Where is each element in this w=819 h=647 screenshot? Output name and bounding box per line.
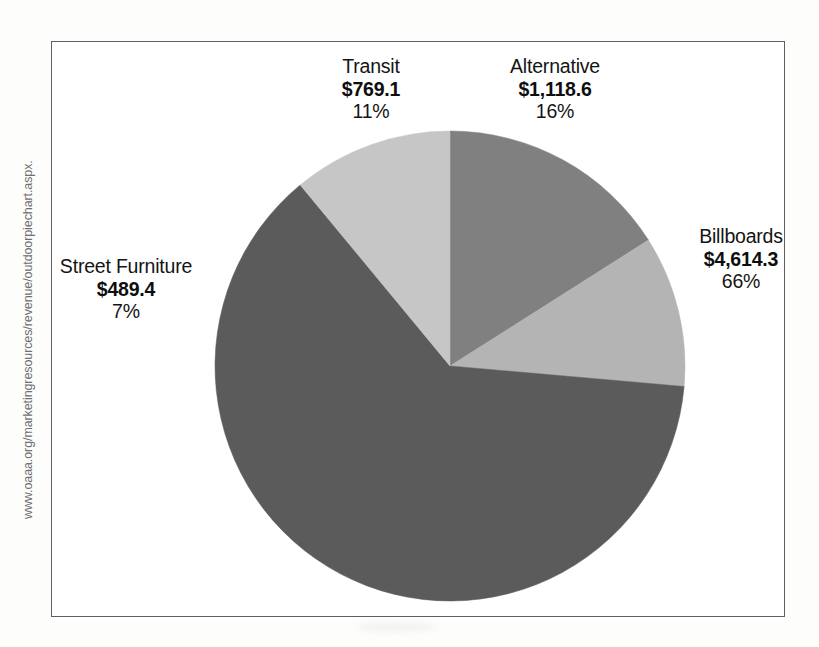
slice-label-transit-value: $769.1 (296, 78, 446, 101)
slice-label-billboards-name: Billboards (672, 225, 810, 248)
slice-label-billboards-value: $4,614.3 (672, 248, 810, 271)
slice-label-street-furniture-value: $489.4 (32, 278, 220, 301)
slice-label-transit-name: Transit (296, 55, 446, 78)
chart-frame (51, 41, 785, 617)
slice-label-billboards-percent: 66% (672, 270, 810, 293)
slice-label-alternative-percent: 16% (470, 100, 640, 123)
slice-label-billboards: Billboards $4,614.3 66% (672, 225, 810, 293)
slice-label-street-furniture-percent: 7% (32, 300, 220, 323)
slice-label-transit-percent: 11% (296, 100, 446, 123)
slice-label-street-furniture: Street Furniture $489.4 7% (32, 255, 220, 323)
scan-artifact (356, 622, 436, 632)
slice-label-alternative: Alternative $1,118.6 16% (470, 55, 640, 123)
slice-label-street-furniture-name: Street Furniture (32, 255, 220, 278)
slice-label-alternative-value: $1,118.6 (470, 78, 640, 101)
slice-label-alternative-name: Alternative (470, 55, 640, 78)
slice-label-transit: Transit $769.1 11% (296, 55, 446, 123)
